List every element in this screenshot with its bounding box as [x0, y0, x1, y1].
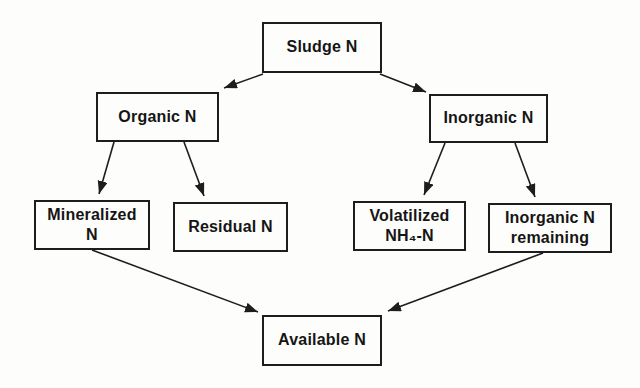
node-volatilized-nh4-n: Volatilized NH₄-N	[353, 201, 466, 251]
node-available-n: Available N	[262, 315, 382, 366]
node-inorganic-n: Inorganic N	[429, 94, 548, 143]
edge-organic-n-to-residual-n	[184, 142, 204, 196]
node-sludge-n: Sludge N	[262, 22, 382, 73]
edge-sludge-n-to-organic-n	[224, 74, 263, 88]
edge-mineralized-n-to-available-n	[92, 250, 258, 312]
edge-sludge-n-to-inorganic-n	[380, 74, 426, 92]
edge-inorganic-n-to-volatilized-nh4-n	[424, 143, 445, 195]
edge-inorganic-n-remaining-to-available-n	[388, 253, 543, 311]
node-organic-n: Organic N	[96, 92, 219, 142]
edge-organic-n-to-mineralized-n	[99, 142, 114, 194]
node-inorganic-n-remaining: Inorganic N remaining	[488, 203, 612, 253]
nitrogen-flow-diagram: Sludge N Organic N Inorganic N Mineraliz…	[0, 0, 640, 388]
node-residual-n: Residual N	[173, 202, 288, 252]
node-mineralized-n: Mineralized N	[34, 200, 150, 250]
edge-inorganic-n-to-inorganic-n-remaining	[515, 143, 535, 197]
